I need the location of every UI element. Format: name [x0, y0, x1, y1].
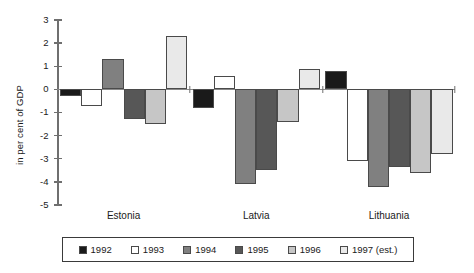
bar-lithuania-1994: [368, 89, 389, 186]
bar-latvia-1992: [193, 89, 214, 108]
legend-swatch-icon: [340, 246, 348, 254]
y-axis-title: in per cent of GDP: [14, 0, 28, 60]
legend-label: 1997 (est.): [352, 244, 397, 255]
group-label-latvia: Latvia: [243, 210, 270, 221]
group-separator-tick: [322, 86, 323, 93]
legend-label: 1996: [300, 244, 321, 255]
y-axis-tick: 3: [54, 19, 62, 20]
bar-latvia-1993: [214, 76, 235, 90]
plot-area: 3210-1-2-3-4-5: [57, 20, 455, 205]
bar-estonia-1995: [124, 89, 145, 119]
y-axis-tick: 1: [54, 66, 62, 67]
bar-estonia-1994: [102, 59, 123, 89]
legend-swatch-icon: [183, 246, 191, 254]
legend-swatch-icon: [288, 246, 296, 254]
y-axis-title-text: in per cent of GDP: [14, 60, 25, 190]
legend-item[interactable]: 1996: [288, 244, 321, 255]
legend-label: 1995: [247, 244, 268, 255]
bar-lithuania-1992: [325, 71, 346, 90]
group-separator-tick: [189, 86, 190, 93]
legend-item[interactable]: 1994: [183, 244, 216, 255]
y-axis-tick-label: 2: [43, 38, 48, 48]
legend-swatch-icon: [79, 246, 87, 254]
y-axis-tick-label: -5: [40, 200, 48, 210]
y-axis-tick-label: 1: [43, 61, 48, 71]
bar-latvia-1997: [299, 69, 320, 90]
bar-lithuania-1995: [389, 89, 410, 166]
chart-figure: in per cent of GDP 3210-1-2-3-4-5 Estoni…: [0, 0, 474, 273]
bar-latvia-1996: [277, 89, 298, 121]
legend-item[interactable]: 1993: [131, 244, 164, 255]
bar-lithuania-1997: [431, 89, 452, 154]
legend-item[interactable]: 1995: [235, 244, 268, 255]
y-axis-tick: -1: [54, 112, 62, 113]
legend-label: 1992: [91, 244, 112, 255]
bar-latvia-1994: [235, 89, 256, 184]
chart-legend: 199219931994199519961997 (est.): [62, 237, 414, 262]
y-axis-tick-label: -4: [40, 177, 48, 187]
y-axis-tick: 2: [54, 42, 62, 43]
bar-lithuania-1996: [410, 89, 431, 172]
bar-estonia-1996: [145, 89, 166, 124]
bar-estonia-1997: [166, 36, 187, 89]
legend-swatch-icon: [131, 246, 139, 254]
group-label-estonia: Estonia: [107, 210, 140, 221]
y-axis-tick-label: 3: [43, 15, 48, 25]
axis-end-tick: [454, 86, 455, 93]
y-axis-tick-label: -3: [40, 154, 48, 164]
bar-lithuania-1993: [347, 89, 368, 161]
bar-estonia-1992: [60, 89, 81, 96]
y-axis-tick: -3: [54, 158, 62, 159]
legend-label: 1993: [143, 244, 164, 255]
y-axis-tick-label: -1: [40, 108, 48, 118]
legend-item[interactable]: 1992: [79, 244, 112, 255]
y-axis-tick: -5: [54, 204, 62, 205]
legend-swatch-icon: [235, 246, 243, 254]
y-axis-tick: -2: [54, 135, 62, 136]
bar-latvia-1995: [256, 89, 277, 170]
y-axis-tick: -4: [54, 181, 62, 182]
bar-estonia-1993: [81, 89, 102, 105]
y-axis-tick-label: 0: [43, 85, 48, 95]
group-label-lithuania: Lithuania: [369, 210, 410, 221]
y-axis-tick-label: -2: [40, 131, 48, 141]
legend-label: 1994: [195, 244, 216, 255]
legend-item[interactable]: 1997 (est.): [340, 244, 397, 255]
